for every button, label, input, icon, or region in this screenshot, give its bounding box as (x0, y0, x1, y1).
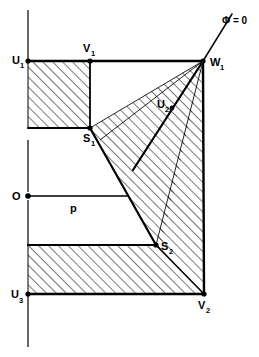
dot-v1 (87, 58, 92, 63)
label-v2: V 2 (198, 299, 210, 315)
dot-u1 (25, 58, 30, 63)
diagram-svg: U 1 V 1 W 1 U 2 S 1 O p S 2 (0, 0, 259, 357)
label-u3-base: U (11, 288, 19, 300)
dot-u3 (25, 291, 30, 296)
dot-origin (25, 193, 31, 199)
label-u1-base: U (12, 54, 20, 66)
label-s1-sub: 1 (91, 139, 95, 148)
dot-w1 (200, 58, 205, 63)
label-v1: V 1 (83, 42, 95, 58)
label-u2-sub: 2 (165, 105, 169, 114)
label-v2-sub: 2 (206, 306, 210, 315)
edge-w1-v2-right (203, 61, 204, 294)
label-w1: W 1 (210, 56, 224, 72)
hatched-region-upper-left (28, 61, 90, 128)
label-s2-base: S (161, 240, 168, 252)
label-p: p (70, 202, 77, 214)
label-u3-sub: 3 (19, 296, 23, 305)
dot-s2 (153, 242, 158, 247)
label-v1-sub: 1 (91, 49, 95, 58)
label-w1-sub: 1 (220, 63, 224, 72)
label-u1-sub: 1 (20, 61, 24, 70)
label-phi-zero: Φ = 0 (222, 15, 248, 26)
label-u1: U 1 (12, 54, 24, 70)
label-v1-base: V (83, 42, 91, 54)
label-u2-base: U (157, 98, 165, 110)
dot-u2 (170, 106, 175, 111)
label-v2-base: V (198, 299, 206, 311)
dot-s1 (87, 125, 92, 130)
dot-v2 (201, 291, 206, 296)
label-u3: U 3 (11, 288, 23, 305)
figure-root: U 1 V 1 W 1 U 2 S 1 O p S 2 (0, 0, 259, 357)
label-origin: O (12, 190, 21, 202)
label-s1-base: S (83, 132, 90, 144)
label-s2-sub: 2 (169, 247, 173, 256)
